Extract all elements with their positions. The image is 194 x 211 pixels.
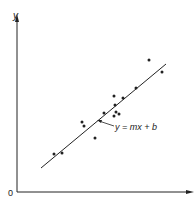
regression-line xyxy=(41,64,166,168)
data-point xyxy=(81,121,84,124)
data-point xyxy=(114,104,117,107)
data-point xyxy=(113,95,116,98)
data-point xyxy=(118,113,121,116)
scatter-chart: y 0 y = mx + b xyxy=(0,0,194,211)
data-point xyxy=(103,112,106,115)
data-points xyxy=(53,59,164,156)
origin-label: 0 xyxy=(8,188,13,198)
annotation-arrowhead-icon xyxy=(97,120,102,123)
x-axis-arrow-icon xyxy=(186,190,194,194)
data-point xyxy=(83,125,86,128)
equation-label: y = mx + b xyxy=(114,122,157,132)
data-point xyxy=(53,153,56,156)
data-point xyxy=(94,137,97,140)
fit-line xyxy=(41,64,166,168)
data-point xyxy=(148,59,151,62)
data-point xyxy=(115,111,118,114)
y-axis-label: y xyxy=(12,10,19,21)
data-point xyxy=(61,152,64,155)
data-point xyxy=(113,115,116,118)
data-point xyxy=(135,87,138,90)
data-point xyxy=(122,97,125,100)
data-point xyxy=(161,71,164,74)
